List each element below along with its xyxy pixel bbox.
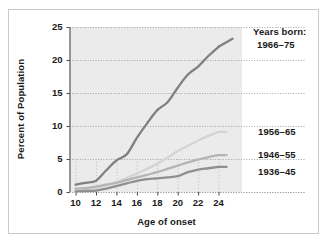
x-tick-label: 24: [208, 197, 230, 208]
legend-title: Years born:: [253, 26, 306, 37]
series-label-1946-55: 1946–55: [258, 149, 296, 160]
x-axis-title: Age of onset: [0, 216, 333, 227]
y-tick-label: 5: [41, 153, 63, 164]
y-tick-label: 15: [41, 87, 63, 98]
y-axis-title: Percent of Population: [15, 58, 26, 158]
x-tick-label: 12: [85, 197, 107, 208]
series-label-1956-65: 1956–65: [258, 126, 296, 137]
x-tick-label: 14: [105, 197, 127, 208]
figure: Percent of Population Age of onset 05101…: [0, 0, 333, 250]
series-label-1966-75: 1966–75: [257, 39, 295, 50]
x-tick-label: 22: [187, 197, 209, 208]
y-axis-title-wrapper: Percent of Population: [13, 36, 27, 181]
y-tick-label: 25: [41, 21, 63, 32]
x-tick-label: 10: [65, 197, 87, 208]
y-tick-label: 20: [41, 54, 63, 65]
y-tick-label: 10: [41, 120, 63, 131]
series-label-1936-45: 1936–45: [258, 166, 296, 177]
x-tick-label: 18: [146, 197, 168, 208]
y-tick-label: 0: [41, 186, 63, 197]
x-tick-label: 16: [126, 197, 148, 208]
x-tick-label: 20: [167, 197, 189, 208]
